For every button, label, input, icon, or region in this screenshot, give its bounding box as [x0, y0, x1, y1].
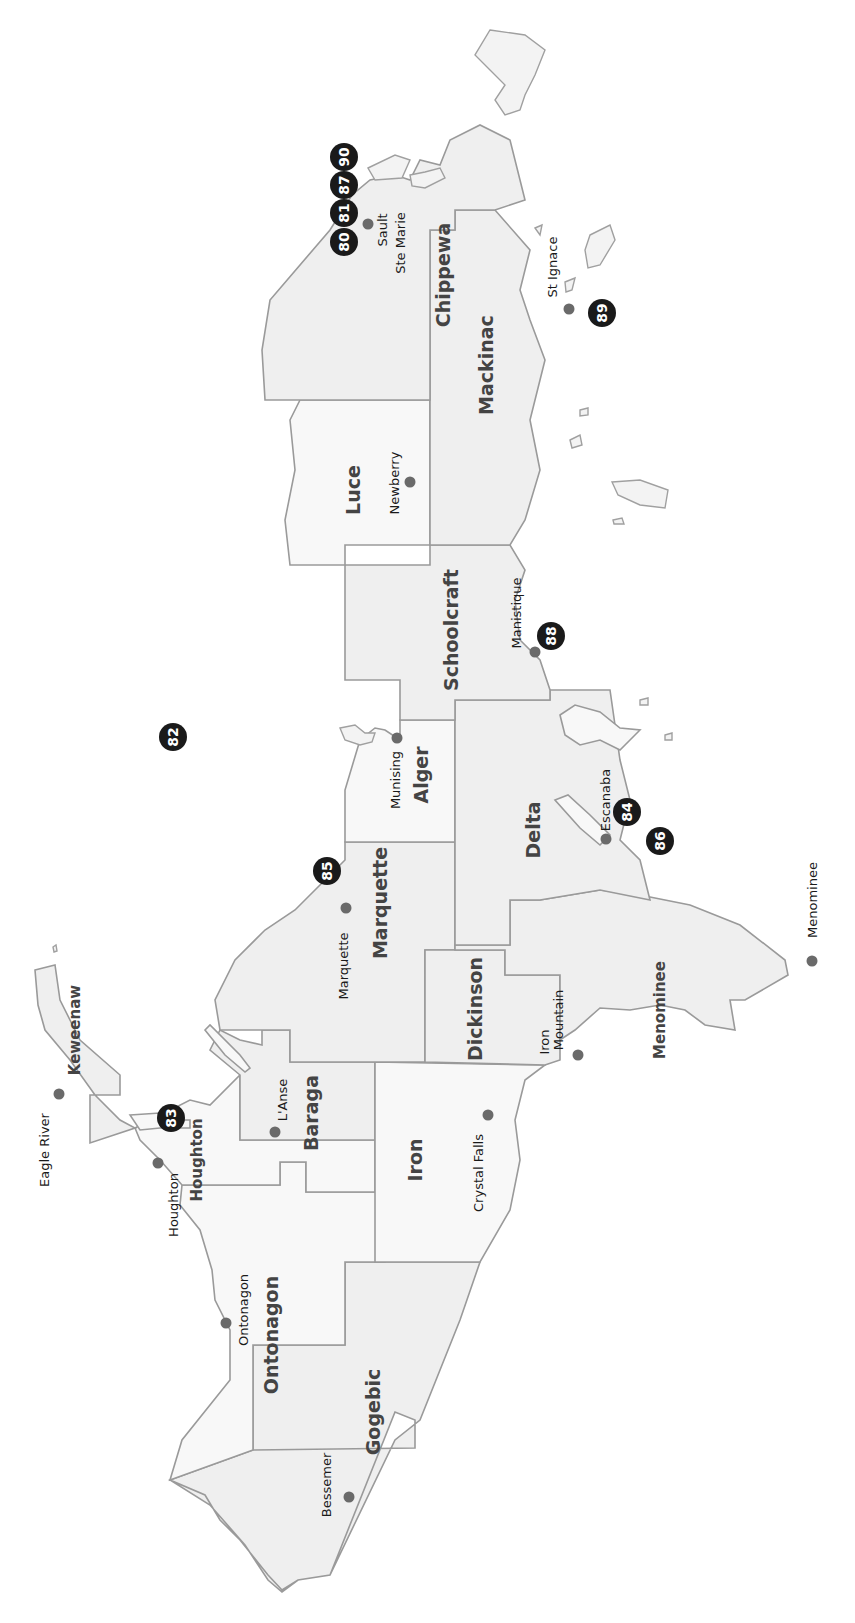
marker-90[interactable]: 90 — [330, 143, 358, 171]
svg-text:82: 82 — [165, 727, 181, 746]
island-small-3 — [570, 435, 582, 448]
city-dot-manistique[interactable] — [530, 647, 541, 658]
county-label-marquette: Marquette — [369, 847, 391, 959]
svg-text:90: 90 — [336, 147, 352, 167]
city-dot-escanaba[interactable] — [601, 834, 612, 845]
svg-text:87: 87 — [336, 175, 352, 194]
city-label-houghton: Houghton — [166, 1173, 181, 1237]
marker-88[interactable]: 88 — [537, 622, 565, 650]
city-dot-st-ignace[interactable] — [564, 304, 575, 315]
city-dot-menominee[interactable] — [807, 956, 818, 967]
city-dot-iron-mountain[interactable] — [573, 1050, 584, 1061]
svg-text:88: 88 — [543, 626, 559, 645]
city-label-menominee: Menominee — [805, 862, 820, 938]
svg-text:83: 83 — [163, 1108, 179, 1127]
county-label-alger: Alger — [410, 746, 432, 804]
city-dot-ontonagon[interactable] — [221, 1318, 232, 1329]
island-grand — [340, 725, 375, 745]
county-label-schoolcraft: Schoolcraft — [440, 569, 462, 691]
island-small-1 — [535, 225, 542, 235]
city-dot-bessemer[interactable] — [344, 1492, 355, 1503]
island-beaver — [612, 480, 668, 508]
marker-89[interactable]: 89 — [588, 299, 616, 327]
city-dot-newberry[interactable] — [405, 477, 416, 488]
city-label-eagle-river: Eagle River — [37, 1112, 52, 1187]
city-label-lanse: L'Anse — [275, 1079, 290, 1122]
island-small-5 — [665, 733, 672, 740]
island-sugar — [368, 155, 410, 180]
svg-text:86: 86 — [652, 831, 668, 850]
city-label-sault-2: Ste Marie — [393, 212, 408, 274]
marker-86[interactable]: 86 — [646, 827, 674, 855]
city-dot-houghton[interactable] — [153, 1158, 164, 1169]
county-label-menominee: Menominee — [651, 961, 669, 1059]
city-label-bessemer: Bessemer — [319, 1452, 334, 1517]
marker-81[interactable]: 81 — [330, 199, 358, 227]
svg-text:80: 80 — [336, 232, 352, 252]
county-label-keweenaw: Keweenaw — [66, 985, 84, 1076]
city-label-marquette: Marquette — [336, 933, 351, 1000]
county-label-gogebic: Gogebic — [362, 1369, 384, 1456]
island-small-4 — [580, 408, 588, 416]
island-small-2 — [613, 518, 624, 524]
county-label-mackinac: Mackinac — [475, 315, 497, 415]
county-label-dickinson: Dickinson — [464, 957, 486, 1061]
city-label-manistique: Manistique — [509, 577, 524, 648]
city-label-munising: Munising — [388, 751, 403, 809]
city-dot-eagle-river[interactable] — [54, 1089, 65, 1100]
county-label-baraga: Baraga — [300, 1075, 322, 1151]
island-bois-blanc — [585, 225, 615, 268]
city-dot-munising[interactable] — [392, 733, 403, 744]
marker-82[interactable]: 82 — [159, 723, 187, 751]
city-label-st-ignace: St Ignace — [545, 237, 560, 298]
city-label-iron-mountain-2: Mountain — [551, 990, 566, 1051]
island-tiny — [53, 945, 57, 952]
county-label-iron: Iron — [404, 1138, 426, 1181]
city-label-sault-1: Sault — [375, 213, 390, 246]
island-mackinac — [565, 278, 575, 292]
city-label-ontonagon: Ontonagon — [236, 1274, 251, 1346]
marker-80[interactable]: 80 — [330, 228, 358, 256]
upper-peninsula-map: Keweenaw Houghton Ontonagon Gogebic Bara… — [0, 0, 855, 1623]
county-label-delta: Delta — [522, 801, 544, 858]
county-label-ontonagon: Ontonagon — [260, 1276, 282, 1394]
svg-text:89: 89 — [594, 303, 610, 322]
county-label-houghton: Houghton — [188, 1118, 206, 1201]
land-layer — [35, 30, 788, 1592]
county-iron[interactable] — [375, 1062, 545, 1262]
city-label-crystal-falls: Crystal Falls — [471, 1134, 486, 1212]
svg-text:81: 81 — [336, 203, 352, 222]
city-dot-lanse[interactable] — [270, 1127, 281, 1138]
marker-84[interactable]: 84 — [613, 798, 641, 826]
city-label-iron-mountain-1: Iron — [537, 1029, 552, 1054]
county-label-chippewa: Chippewa — [432, 223, 454, 327]
city-label-escanaba: Escanaba — [598, 769, 613, 832]
island-small-6 — [640, 698, 648, 705]
city-dot-crystal-falls[interactable] — [483, 1110, 494, 1121]
svg-text:85: 85 — [319, 861, 335, 880]
marker-87[interactable]: 87 — [330, 171, 358, 199]
marker-83[interactable]: 83 — [157, 1104, 185, 1132]
city-label-newberry: Newberry — [387, 451, 402, 514]
county-label-luce: Luce — [342, 465, 364, 515]
island-drummond — [475, 30, 545, 115]
marker-85[interactable]: 85 — [313, 857, 341, 885]
svg-text:84: 84 — [619, 802, 635, 822]
city-dot-sault-ste-marie[interactable] — [363, 219, 374, 230]
city-dot-marquette[interactable] — [341, 903, 352, 914]
